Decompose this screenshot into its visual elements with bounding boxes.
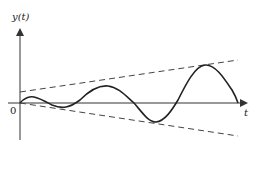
y-axis-label: y(t) [12, 12, 29, 22]
origin-label: 0 [10, 106, 16, 116]
lower-envelope [20, 103, 238, 136]
growing-oscillation-diagram [0, 0, 258, 179]
signal-curve [20, 65, 238, 122]
t-axis-label: t [244, 108, 248, 118]
